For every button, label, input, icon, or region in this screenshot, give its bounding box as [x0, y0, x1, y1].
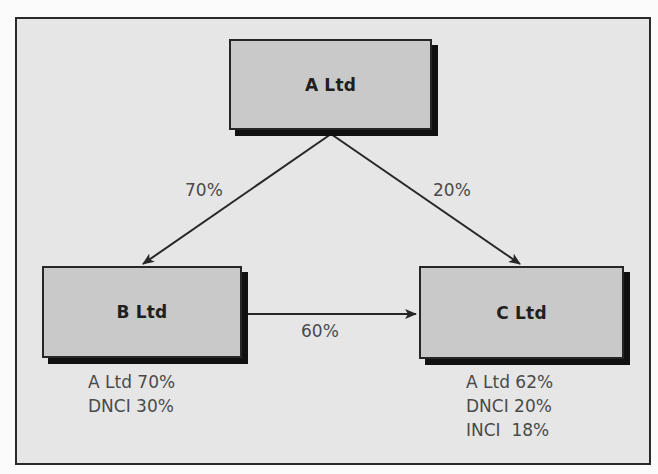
b-ltd-ownership: A Ltd 70% DNCI 30%	[88, 370, 175, 418]
edge-label-b-c: 60%	[301, 321, 339, 341]
node-a-label: A Ltd	[305, 75, 356, 95]
node-b-ltd: B Ltd	[42, 266, 242, 358]
ownership-line: DNCI 20%	[466, 394, 553, 418]
ownership-line: A Ltd 70%	[88, 370, 175, 394]
node-c-label: C Ltd	[496, 303, 547, 323]
edge-label-a-c: 20%	[433, 180, 471, 200]
ownership-line: DNCI 30%	[88, 394, 175, 418]
node-c-ltd: C Ltd	[419, 266, 624, 359]
ownership-line: A Ltd 62%	[466, 370, 553, 394]
edge-label-a-b: 70%	[185, 180, 223, 200]
node-a-ltd: A Ltd	[229, 39, 432, 130]
node-b-label: B Ltd	[116, 302, 167, 322]
c-ltd-ownership: A Ltd 62% DNCI 20% INCI 18%	[466, 370, 553, 442]
ownership-line: INCI 18%	[466, 418, 553, 442]
